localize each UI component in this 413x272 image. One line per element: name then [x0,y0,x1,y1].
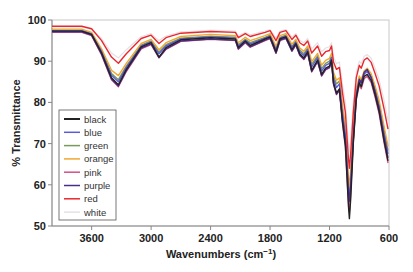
y-tick-label: 70 [34,138,46,150]
y-tick-label: 90 [34,55,46,67]
legend-label-green: green [84,140,108,151]
x-axis-ticks: 36003000240018001200600 [79,226,398,244]
x-tick-label: 3000 [139,232,163,244]
legend-label-orange: orange [84,153,114,164]
legend-label-purple: purple [84,180,110,191]
y-axis-ticks: 5060708090100 [28,14,52,232]
x-axis-title: Wavenumbers (cm−1) [166,247,277,260]
ftir-chart: 5060708090100 36003000240018001200600 % … [0,0,413,272]
x-tick-label: 3600 [79,232,103,244]
x-tick-label: 2400 [198,232,222,244]
y-tick-label: 80 [34,96,46,108]
legend-label-blue: blue [84,127,102,138]
x-tick-label: 1800 [258,232,282,244]
x-tick-label: 600 [380,232,398,244]
legend-label-white: white [83,207,106,218]
y-axis-title: % Transmittance [10,79,22,166]
legend: blackbluegreenorangepinkpurpleredwhite [59,110,116,220]
legend-label-pink: pink [84,167,102,178]
legend-label-red: red [84,193,98,204]
y-tick-label: 60 [34,179,46,191]
y-tick-label: 50 [34,220,46,232]
x-tick-label: 1200 [317,232,341,244]
legend-label-black: black [84,114,106,125]
y-tick-label: 100 [28,14,46,26]
